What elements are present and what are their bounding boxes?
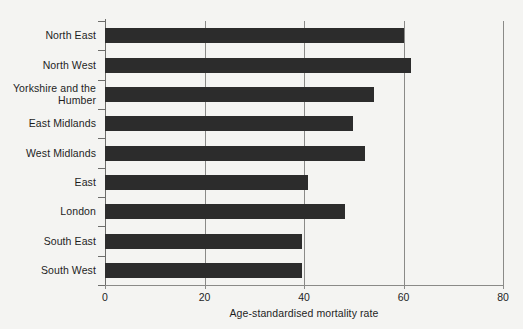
y-axis-label-line1: West Midlands (4, 147, 96, 160)
y-axis-label: West Midlands (4, 147, 96, 160)
y-axis-label: South East (4, 235, 96, 248)
y-axis-label: North East (4, 29, 96, 42)
x-axis-tick-0 (105, 285, 106, 289)
bar (105, 28, 404, 43)
plot-area (105, 21, 503, 285)
x-axis-title: Age-standardised mortality rate (105, 307, 503, 319)
bar-chart-figure: North East North West Yorkshire and the … (0, 0, 523, 329)
y-axis-label-line1: South East (4, 235, 96, 248)
x-axis-ticklabel: 40 (284, 291, 324, 303)
x-axis-tick-60 (404, 285, 405, 289)
y-axis-label-line1: North East (4, 29, 96, 42)
bar (105, 58, 411, 73)
y-axis-label: London (4, 205, 96, 218)
y-axis-label: North West (4, 59, 96, 72)
y-axis-label-line1: Yorkshire and the (4, 82, 96, 95)
y-axis-label-line2: Humber (4, 94, 96, 107)
x-axis-tick-20 (205, 285, 206, 289)
bar (105, 116, 353, 131)
bar (105, 87, 374, 102)
x-axis-ticklabel: 60 (384, 291, 424, 303)
y-axis-label-group: North East North West Yorkshire and the … (0, 0, 96, 329)
y-axis-tick (98, 226, 105, 227)
y-axis-tick (98, 21, 105, 22)
y-axis-tick (98, 138, 105, 139)
y-axis-tick (98, 285, 105, 286)
y-axis-tick (98, 50, 105, 51)
y-axis-tick (98, 80, 105, 81)
x-axis-tick-40 (304, 285, 305, 289)
x-axis-ticklabel: 80 (483, 291, 523, 303)
y-axis-tick (98, 168, 105, 169)
x-axis-tick-80 (503, 285, 504, 289)
bar (105, 234, 302, 249)
gridline-80 (503, 21, 504, 285)
x-axis-ticklabel: 0 (85, 291, 125, 303)
bar (105, 146, 365, 161)
y-axis-label-line1: East Midlands (4, 117, 96, 130)
bar (105, 175, 308, 190)
y-axis-label: East Midlands (4, 117, 96, 130)
y-axis-label: Yorkshire and the Humber (4, 82, 96, 107)
y-axis-label-line1: North West (4, 59, 96, 72)
bar (105, 204, 345, 219)
y-axis-label-line1: South West (4, 264, 96, 277)
y-axis-tick (98, 197, 105, 198)
bar (105, 263, 302, 278)
y-axis-tick (98, 256, 105, 257)
y-axis-label-line1: London (4, 205, 96, 218)
y-axis-tick (98, 109, 105, 110)
y-axis-label: South West (4, 264, 96, 277)
x-axis-ticklabel: 20 (185, 291, 225, 303)
y-axis-label-line1: East (4, 176, 96, 189)
y-axis-label: East (4, 176, 96, 189)
